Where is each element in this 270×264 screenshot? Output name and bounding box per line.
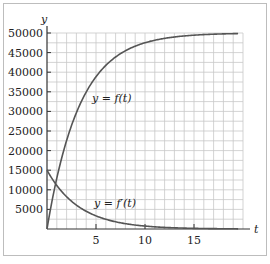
x-tick-label: 5 [93,234,100,247]
y-tick-label: 35000 [8,86,43,99]
x-tick-label: 10 [138,234,152,247]
x-tick-label: 15 [187,234,201,247]
line-chart: 5000100001500020000250003000035000400004… [0,0,270,264]
y-tick-label: 25000 [8,125,43,138]
y-tick-label: 40000 [8,66,43,79]
x-axis-label: t [254,223,259,236]
curve-label-f: y = f(t) [91,92,132,105]
grid-lines [47,33,243,229]
y-tick-label: 45000 [8,47,43,60]
y-tick-label: 15000 [8,164,43,177]
y-tick-label: 10000 [8,184,43,197]
ticks: 5000100001500020000250003000035000400004… [8,27,201,247]
y-tick-label: 30000 [8,105,43,118]
axes [47,26,250,229]
y-axis-label: y [40,13,48,26]
y-tick-label: 5000 [15,203,43,216]
y-tick-label: 20000 [8,145,43,158]
y-tick-label: 50000 [8,27,43,40]
curve-label-fprime: y = f′(t) [93,197,136,210]
